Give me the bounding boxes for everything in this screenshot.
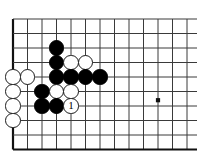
move-number-label: 1 [64,99,77,112]
stone-black [49,98,64,113]
stone-white [5,113,20,128]
stone-white [78,55,93,70]
stone-white [5,69,20,84]
stone-black [49,55,64,70]
stone-white [49,84,64,99]
stone-black [63,69,78,84]
stone-white [5,84,20,99]
stone-white [5,98,20,113]
stone-white [63,84,78,99]
stone-black [34,84,49,99]
stone-white [63,55,78,70]
go-diagram: 1 [0,0,204,163]
stone-black [78,69,93,84]
stone-black [49,69,64,84]
stone-white [20,69,35,84]
stone-black [34,98,49,113]
stone-black [92,69,107,84]
star-point [156,98,160,102]
stone-black [49,40,64,55]
stone-white-move-1: 1 [63,98,78,113]
